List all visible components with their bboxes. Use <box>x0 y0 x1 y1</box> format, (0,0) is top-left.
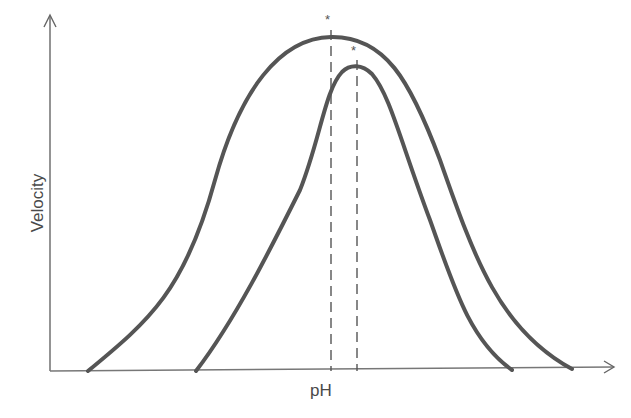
y-axis-label: Velocity <box>28 163 48 243</box>
optimum-marker-broad: * <box>325 12 330 27</box>
velocity-ph-chart <box>0 0 631 418</box>
broad-curve <box>88 37 572 371</box>
y-axis-label-container: Velocity <box>14 175 54 235</box>
x-axis <box>50 367 614 371</box>
optimum-marker-narrow: * <box>351 43 356 58</box>
x-axis-label: pH <box>310 381 332 401</box>
narrow-curve <box>196 66 512 371</box>
